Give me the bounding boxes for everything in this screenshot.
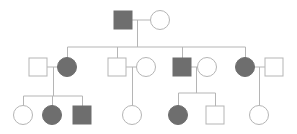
female-unaffected-symbol <box>14 106 33 125</box>
female-affected-symbol <box>169 106 188 125</box>
male-unaffected-symbol <box>108 58 126 76</box>
male-unaffected-symbol <box>265 58 283 76</box>
female-unaffected-symbol <box>250 106 269 125</box>
male-unaffected-symbol <box>29 58 47 76</box>
male-affected-symbol <box>73 106 91 124</box>
female-affected-symbol <box>43 106 62 125</box>
female-affected-symbol <box>236 58 255 77</box>
pedigree-chart <box>0 0 297 134</box>
male-affected-symbol <box>173 58 191 76</box>
male-unaffected-symbol <box>206 106 224 124</box>
female-unaffected-symbol <box>123 106 142 125</box>
female-affected-symbol <box>58 58 77 77</box>
male-affected-symbol <box>114 11 132 29</box>
female-unaffected-symbol <box>198 58 217 77</box>
female-unaffected-symbol <box>137 58 156 77</box>
female-unaffected-symbol <box>151 11 170 30</box>
